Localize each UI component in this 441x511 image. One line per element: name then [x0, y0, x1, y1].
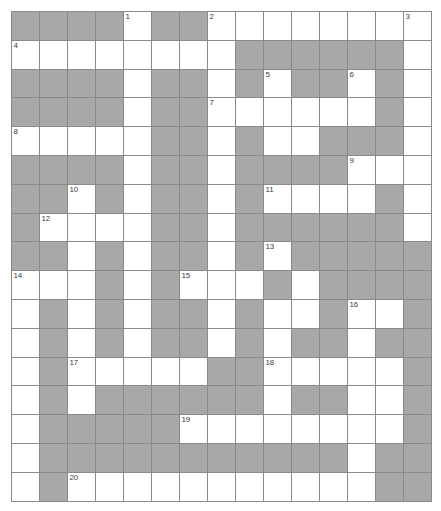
crossword-letter-cell[interactable] — [40, 41, 68, 70]
crossword-letter-cell[interactable] — [376, 12, 404, 41]
crossword-letter-cell[interactable] — [264, 300, 292, 329]
crossword-letter-cell[interactable] — [404, 185, 432, 214]
crossword-letter-cell[interactable] — [348, 329, 376, 358]
crossword-letter-cell[interactable] — [208, 473, 236, 502]
crossword-letter-cell[interactable] — [404, 70, 432, 99]
crossword-letter-cell[interactable] — [292, 415, 320, 444]
crossword-letter-cell[interactable] — [12, 329, 40, 358]
crossword-letter-cell[interactable]: 2 — [208, 12, 236, 41]
crossword-letter-cell[interactable] — [348, 473, 376, 502]
crossword-letter-cell[interactable] — [96, 358, 124, 387]
crossword-letter-cell[interactable]: 1 — [124, 12, 152, 41]
crossword-letter-cell[interactable] — [68, 386, 96, 415]
crossword-letter-cell[interactable] — [124, 329, 152, 358]
crossword-letter-cell[interactable] — [348, 185, 376, 214]
crossword-letter-cell[interactable] — [208, 70, 236, 99]
crossword-letter-cell[interactable] — [264, 386, 292, 415]
crossword-letter-cell[interactable] — [320, 98, 348, 127]
crossword-letter-cell[interactable] — [292, 185, 320, 214]
crossword-letter-cell[interactable] — [12, 473, 40, 502]
crossword-letter-cell[interactable] — [236, 98, 264, 127]
crossword-letter-cell[interactable] — [152, 358, 180, 387]
crossword-letter-cell[interactable]: 9 — [348, 156, 376, 185]
crossword-letter-cell[interactable] — [12, 300, 40, 329]
crossword-letter-cell[interactable] — [124, 185, 152, 214]
crossword-letter-cell[interactable] — [96, 214, 124, 243]
crossword-letter-cell[interactable] — [404, 156, 432, 185]
crossword-letter-cell[interactable] — [236, 473, 264, 502]
crossword-letter-cell[interactable] — [404, 98, 432, 127]
crossword-letter-cell[interactable] — [404, 41, 432, 70]
crossword-letter-cell[interactable] — [292, 12, 320, 41]
crossword-letter-cell[interactable] — [320, 473, 348, 502]
crossword-letter-cell[interactable]: 20 — [68, 473, 96, 502]
crossword-letter-cell[interactable] — [40, 271, 68, 300]
crossword-letter-cell[interactable] — [376, 156, 404, 185]
crossword-letter-cell[interactable] — [12, 415, 40, 444]
crossword-letter-cell[interactable] — [348, 386, 376, 415]
crossword-letter-cell[interactable] — [208, 242, 236, 271]
crossword-letter-cell[interactable]: 12 — [40, 214, 68, 243]
crossword-letter-cell[interactable] — [208, 300, 236, 329]
crossword-letter-cell[interactable] — [376, 415, 404, 444]
crossword-letter-cell[interactable] — [124, 473, 152, 502]
crossword-letter-cell[interactable] — [264, 12, 292, 41]
crossword-letter-cell[interactable] — [376, 358, 404, 387]
crossword-letter-cell[interactable]: 8 — [12, 127, 40, 156]
crossword-letter-cell[interactable]: 11 — [264, 185, 292, 214]
crossword-letter-cell[interactable] — [68, 329, 96, 358]
crossword-letter-cell[interactable]: 6 — [348, 70, 376, 99]
crossword-letter-cell[interactable] — [180, 358, 208, 387]
crossword-letter-cell[interactable] — [404, 127, 432, 156]
crossword-letter-cell[interactable] — [320, 185, 348, 214]
crossword-letter-cell[interactable] — [292, 127, 320, 156]
crossword-letter-cell[interactable] — [180, 473, 208, 502]
crossword-letter-cell[interactable] — [96, 127, 124, 156]
crossword-letter-cell[interactable] — [292, 271, 320, 300]
crossword-letter-cell[interactable]: 15 — [180, 271, 208, 300]
crossword-letter-cell[interactable] — [68, 214, 96, 243]
crossword-letter-cell[interactable] — [208, 156, 236, 185]
crossword-letter-cell[interactable] — [348, 444, 376, 473]
crossword-letter-cell[interactable] — [96, 473, 124, 502]
crossword-letter-cell[interactable] — [236, 415, 264, 444]
crossword-letter-cell[interactable]: 14 — [12, 271, 40, 300]
crossword-letter-cell[interactable] — [376, 386, 404, 415]
crossword-letter-cell[interactable] — [124, 242, 152, 271]
crossword-letter-cell[interactable] — [320, 12, 348, 41]
crossword-letter-cell[interactable]: 4 — [12, 41, 40, 70]
crossword-letter-cell[interactable] — [208, 127, 236, 156]
crossword-letter-cell[interactable] — [124, 358, 152, 387]
crossword-letter-cell[interactable] — [68, 127, 96, 156]
crossword-letter-cell[interactable] — [68, 300, 96, 329]
crossword-letter-cell[interactable] — [96, 41, 124, 70]
crossword-letter-cell[interactable]: 18 — [264, 358, 292, 387]
crossword-letter-cell[interactable] — [320, 358, 348, 387]
crossword-letter-cell[interactable] — [12, 386, 40, 415]
crossword-letter-cell[interactable]: 3 — [404, 12, 432, 41]
crossword-letter-cell[interactable] — [12, 444, 40, 473]
crossword-letter-cell[interactable] — [180, 41, 208, 70]
crossword-letter-cell[interactable] — [208, 329, 236, 358]
crossword-letter-cell[interactable] — [124, 41, 152, 70]
crossword-letter-cell[interactable] — [68, 271, 96, 300]
crossword-letter-cell[interactable] — [264, 127, 292, 156]
crossword-letter-cell[interactable] — [208, 41, 236, 70]
crossword-letter-cell[interactable] — [264, 329, 292, 358]
crossword-letter-cell[interactable] — [124, 127, 152, 156]
crossword-letter-cell[interactable] — [264, 98, 292, 127]
crossword-letter-cell[interactable] — [348, 98, 376, 127]
crossword-letter-cell[interactable]: 10 — [68, 185, 96, 214]
crossword-letter-cell[interactable] — [40, 127, 68, 156]
crossword-letter-cell[interactable]: 5 — [264, 70, 292, 99]
crossword-letter-cell[interactable] — [292, 473, 320, 502]
crossword-letter-cell[interactable]: 7 — [208, 98, 236, 127]
crossword-letter-cell[interactable] — [208, 185, 236, 214]
crossword-letter-cell[interactable] — [124, 98, 152, 127]
crossword-letter-cell[interactable] — [292, 98, 320, 127]
crossword-letter-cell[interactable] — [124, 156, 152, 185]
crossword-letter-cell[interactable] — [404, 214, 432, 243]
crossword-letter-cell[interactable] — [124, 214, 152, 243]
crossword-letter-cell[interactable] — [152, 41, 180, 70]
crossword-letter-cell[interactable] — [208, 271, 236, 300]
